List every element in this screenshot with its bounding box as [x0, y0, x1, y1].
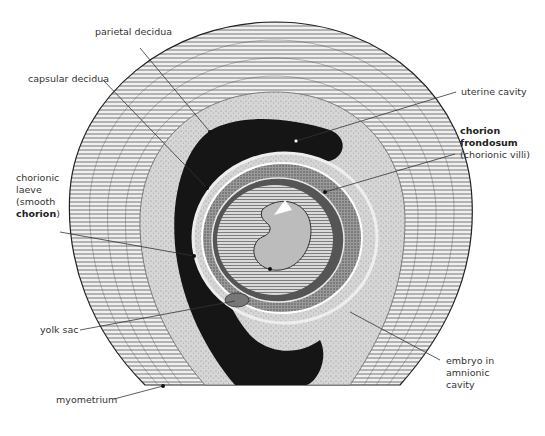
- leader-myometrium: [114, 386, 163, 399]
- yolk-sac-shape: [225, 293, 249, 307]
- label-capsular-decidua: capsular decidua: [28, 73, 109, 85]
- label-embryo-line3: cavity: [446, 379, 494, 391]
- label-chorionic-laeve-line2: laeve: [16, 184, 60, 196]
- label-chorion-bold: chorion: [16, 208, 56, 219]
- label-chorionic-laeve-line3: (smooth: [16, 196, 60, 208]
- label-chorion-frondosum: chorion frondosum (chorionic villi): [460, 125, 530, 161]
- label-embryo-line2: amnionic: [446, 367, 494, 379]
- label-embryo-line1: embryo in: [446, 355, 494, 367]
- label-chorionic-laeve-line1: chorionic: [16, 172, 60, 184]
- label-chorion-paren: ): [56, 208, 60, 219]
- label-chorionic-laeve-line4: chorion): [16, 208, 60, 220]
- label-chorion-frondosum-line3: (chorionic villi): [460, 149, 530, 161]
- label-myometrium: myometrium: [56, 394, 117, 406]
- label-chorion-frondosum-line1: chorion: [460, 125, 530, 137]
- label-chorionic-laeve: chorionic laeve (smooth chorion): [16, 172, 60, 220]
- label-parietal-decidua: parietal decidua: [95, 26, 172, 38]
- label-uterine-cavity: uterine cavity: [461, 86, 527, 98]
- label-chorion-frondosum-line2: frondosum: [460, 137, 530, 149]
- label-embryo: embryo in amnionic cavity: [446, 355, 494, 391]
- label-yolk-sac: yolk sac: [40, 324, 79, 336]
